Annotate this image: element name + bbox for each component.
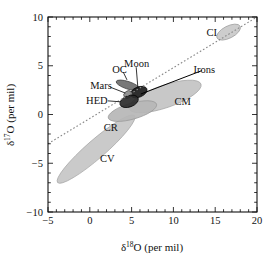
- y-tick-label-2: 0: [38, 109, 43, 120]
- terrestrial-fractionation-line: [48, 17, 257, 144]
- series-label-mars: Mars: [90, 80, 112, 91]
- y-axis-title: δ17O (per mil): [3, 84, 17, 147]
- leader-line-moon: [136, 67, 138, 87]
- reference-lines-group: [48, 17, 257, 144]
- x-tick-label-3: 10: [168, 215, 179, 226]
- axis-frame-group: [48, 17, 257, 212]
- y-tick-label-1: −5: [32, 158, 43, 169]
- chart-canvas: −505101520−10−50510 CICMCVCROCMoonMarsHE…: [0, 0, 273, 263]
- oxygen-three-isotope-plot: −505101520−10−50510 CICMCVCROCMoonMarsHE…: [0, 0, 273, 263]
- leader-line-mars: [110, 87, 125, 93]
- x-tick-label-0: −5: [42, 215, 53, 226]
- series-label-ci: CI: [207, 27, 218, 38]
- tick-labels-group: −505101520−10−50510: [27, 12, 263, 226]
- data-ellipses-group: [52, 21, 243, 190]
- x-tick-label-4: 15: [210, 215, 221, 226]
- y-tick-label-0: −10: [27, 207, 43, 218]
- x-tick-label-1: 0: [87, 215, 92, 226]
- series-label-cr: CR: [104, 122, 118, 133]
- series-label-hed: HED: [86, 95, 108, 106]
- plot-frame: [48, 17, 257, 212]
- y-tick-label-4: 10: [33, 12, 44, 23]
- series-label-moon: Moon: [124, 58, 150, 69]
- series-label-cm: CM: [174, 96, 191, 107]
- x-tick-label-2: 5: [129, 215, 134, 226]
- data-ellipse-ci: [214, 21, 243, 44]
- series-label-cv: CV: [100, 153, 115, 164]
- x-tick-label-5: 20: [252, 215, 263, 226]
- x-axis-title: δ18O (per mil): [121, 240, 184, 254]
- y-tick-label-3: 5: [38, 60, 43, 71]
- series-label-irons: Irons: [194, 64, 216, 75]
